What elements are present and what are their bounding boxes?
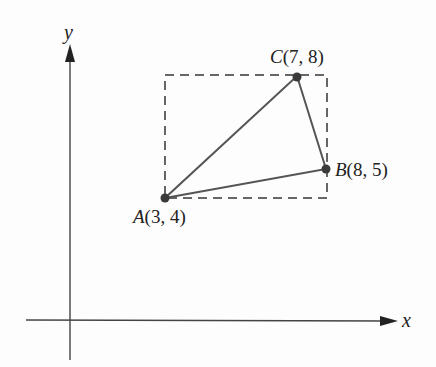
y-axis-arrow-icon — [65, 44, 75, 62]
x-axis-label: x — [402, 310, 411, 330]
triangle-abc — [165, 76, 326, 198]
point-a-name: A — [133, 206, 145, 227]
y-axis-label: y — [64, 22, 73, 42]
diagram-svg — [0, 0, 436, 367]
point-c-label: C(7, 8) — [270, 47, 324, 66]
diagram-canvas: y x A(3, 4) B(8, 5) C(7, 8) — [0, 0, 436, 367]
point-a-coords: (3, 4) — [145, 206, 186, 227]
point-b — [322, 165, 331, 174]
x-axis-arrow-icon — [380, 316, 398, 326]
x-axis — [26, 320, 388, 321]
point-a — [161, 194, 170, 203]
point-a-label: A(3, 4) — [133, 207, 186, 226]
point-c-name: C — [270, 46, 283, 67]
point-c-coords: (7, 8) — [283, 46, 324, 67]
point-b-label: B(8, 5) — [335, 160, 388, 179]
point-b-coords: (8, 5) — [347, 159, 388, 180]
point-b-name: B — [335, 159, 347, 180]
point-c — [293, 73, 302, 82]
